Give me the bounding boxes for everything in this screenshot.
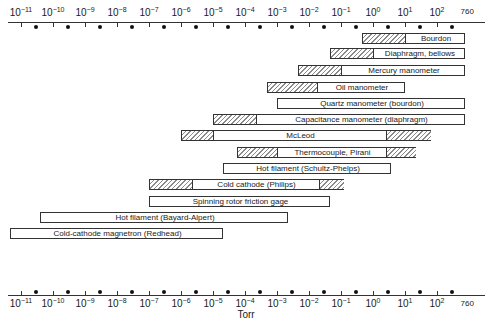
bottom-axis-tick <box>309 291 310 295</box>
top-tick-label: 10−4 <box>235 7 254 18</box>
bar-label: Cold cathode (Philips) <box>217 179 295 190</box>
bottom-axis-dot <box>98 290 102 294</box>
bottom-axis-dot <box>162 290 166 294</box>
top-tick-label: 10−7 <box>139 7 158 18</box>
hatched-segment <box>319 180 344 189</box>
bottom-tick-label: 10−4 <box>235 298 254 309</box>
bar-label: McLeod <box>286 130 314 141</box>
bottom-tick-label: 10−2 <box>299 298 318 309</box>
top-axis-dot <box>226 25 230 29</box>
bottom-axis-line <box>8 295 485 296</box>
hatched-segment <box>386 131 431 140</box>
top-tick-label: 10−3 <box>267 7 286 18</box>
top-tick-label: 10−5 <box>203 7 222 18</box>
top-axis-dot <box>130 25 134 29</box>
bottom-tick-label: 10−10 <box>42 298 65 309</box>
top-axis-dot <box>322 25 326 29</box>
bar-label: Cold-cathode magnetron (Redhead) <box>53 228 181 239</box>
top-axis-tick <box>277 23 278 27</box>
top-axis-tick <box>245 23 246 27</box>
top-axis-tick <box>437 23 438 27</box>
hatched-segment <box>386 148 416 157</box>
range-bar: McLeod <box>181 130 431 141</box>
top-tick-label: 10−9 <box>75 7 94 18</box>
top-axis-dot <box>290 25 294 29</box>
hatched-segment <box>331 49 374 58</box>
bottom-axis-dot <box>130 290 134 294</box>
top-axis-dot <box>98 25 102 29</box>
hatched-segment <box>268 83 318 92</box>
x-axis-title: Torr <box>237 309 254 320</box>
bar-label: Bourdon <box>421 33 451 44</box>
top-axis-tick <box>213 23 214 27</box>
top-tick-label: 10−6 <box>171 7 190 18</box>
top-axis-tick <box>85 23 86 27</box>
range-bar: Spinning rotor friction gage <box>149 196 330 207</box>
range-bar: Capacitance manometer (diaphragm) <box>213 114 465 125</box>
top-axis-dot <box>386 25 390 29</box>
hatched-segment <box>363 34 406 43</box>
top-tick-label: 10−10 <box>42 7 65 18</box>
bar-label: Hot filament (Schultz-Phelps) <box>256 163 360 174</box>
top-tick-label: 101 <box>397 7 412 18</box>
bottom-tick-label: 10−7 <box>139 298 158 309</box>
bottom-axis-tick <box>405 291 406 295</box>
range-bar: Mercury manometer <box>298 65 465 76</box>
bottom-axis-dot <box>322 290 326 294</box>
bottom-tick-label: 10−5 <box>203 298 222 309</box>
bar-label: Capacitance manometer (diaphragm) <box>295 114 428 125</box>
top-axis-tick <box>53 23 54 27</box>
bottom-axis-dot <box>354 290 358 294</box>
hatched-segment <box>214 115 257 124</box>
top-tick-label: 10−11 <box>10 7 32 18</box>
top-axis-tick <box>309 23 310 27</box>
range-bar: Hot filament (Bayard-Alpert) <box>40 212 288 223</box>
top-tick-label: 10−1 <box>331 7 350 18</box>
bottom-axis-tick <box>21 291 22 295</box>
bottom-axis-tick <box>213 291 214 295</box>
bottom-axis-tick <box>245 291 246 295</box>
top-axis-dot <box>34 25 38 29</box>
bottom-axis-tick <box>149 291 150 295</box>
top-tick-label: 10−8 <box>107 7 126 18</box>
bottom-tick-label: 10−3 <box>267 298 286 309</box>
bottom-tick-label: 10−1 <box>331 298 350 309</box>
hatched-segment <box>182 131 214 140</box>
top-axis-tick <box>149 23 150 27</box>
range-bar: Cold cathode (Philips) <box>149 179 344 190</box>
bottom-axis-tick <box>341 291 342 295</box>
bottom-tick-label: 10−11 <box>10 298 32 309</box>
bottom-axis-dot <box>34 290 38 294</box>
bottom-tick-label-760: 760 <box>460 299 473 308</box>
range-bar: Hot filament (Schultz-Phelps) <box>223 163 391 174</box>
hatched-segment <box>299 66 342 75</box>
top-axis-tick <box>341 23 342 27</box>
bottom-axis-dot <box>226 290 230 294</box>
top-tick-label: 100 <box>365 7 380 18</box>
top-tick-label: 102 <box>429 7 444 18</box>
hatched-segment <box>150 180 193 189</box>
bar-label: Mercury manometer <box>368 65 440 76</box>
hatched-segment <box>238 148 278 157</box>
range-bar: Bourdon <box>362 33 465 44</box>
bottom-axis-dot <box>450 290 454 294</box>
bottom-axis-tick <box>181 291 182 295</box>
top-tick-label: 10−2 <box>299 7 318 18</box>
bottom-axis-tick <box>85 291 86 295</box>
top-axis-dot <box>450 25 454 29</box>
bottom-axis-dot <box>418 290 422 294</box>
top-axis-dot <box>258 25 262 29</box>
bottom-axis-dot <box>386 290 390 294</box>
bar-label: Spinning rotor friction gage <box>193 196 289 207</box>
bottom-axis-tick <box>277 291 278 295</box>
top-axis-tick <box>21 23 22 27</box>
bottom-axis-dot <box>194 290 198 294</box>
top-tick-label-760: 760 <box>460 7 473 16</box>
top-axis-dot <box>194 25 198 29</box>
top-axis-dot <box>418 25 422 29</box>
bar-label: Diaphragm, bellows <box>385 48 455 59</box>
top-axis-tick <box>373 23 374 27</box>
top-axis-line <box>8 22 485 23</box>
range-bar: Quartz manometer (bourdon) <box>277 98 465 109</box>
bottom-axis-tick <box>437 291 438 295</box>
